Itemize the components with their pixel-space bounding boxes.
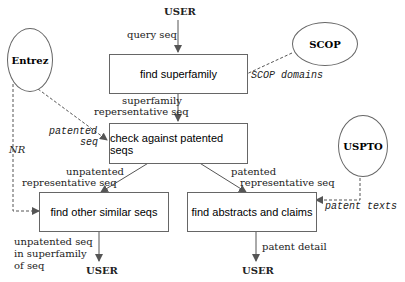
patented-rep-label-1: patented — [231, 166, 276, 177]
nr-label: NR — [9, 144, 25, 155]
find-abstracts-box: find abstracts and claims — [187, 192, 317, 232]
find-superfamily-box: find superfamily — [109, 54, 248, 94]
patent-detail-label: patent detail — [262, 241, 327, 252]
superfamily-label-1: superfamily — [122, 95, 182, 106]
find-abstracts-label: find abstracts and claims — [191, 206, 312, 218]
user-right-label: USER — [242, 265, 274, 276]
unpatented-label-1: unpatented — [66, 166, 124, 177]
superfamily-label-2: repersentative seq — [94, 106, 189, 117]
diagram-canvas: USER query seq SCOP SCOP domains Entrez … — [0, 0, 405, 282]
patented-seq-label-1: patented — [49, 126, 97, 137]
find-superfamily-label: find superfamily — [140, 68, 217, 80]
find-similar-box: find other similar seqs — [39, 192, 169, 232]
entrez-label: Entrez — [12, 55, 49, 66]
uspto-node: USPTO — [338, 115, 388, 177]
check-patented-label: check against patented seqs — [110, 132, 247, 156]
check-patented-box: check against patented seqs — [109, 123, 248, 164]
scop-node: SCOP — [292, 22, 358, 66]
out-left-label-2: in superfamily — [14, 248, 87, 259]
patent-texts-label: patent texts — [325, 201, 397, 212]
out-left-label-3: of seq — [14, 260, 44, 271]
scop-label: SCOP — [309, 39, 340, 50]
user-top-label: USER — [164, 6, 196, 17]
patented-seq-label-2: seq — [80, 137, 98, 148]
unpatented-label-2: representative seq — [22, 177, 117, 188]
uspto-label: USPTO — [343, 141, 383, 152]
scop-domains-label: SCOP domains — [251, 70, 323, 81]
find-similar-label: find other similar seqs — [51, 206, 158, 218]
entrez-node: Entrez — [7, 28, 53, 92]
query-seq-label: query seq — [127, 29, 177, 40]
user-left-label: USER — [86, 265, 118, 276]
patented-rep-label-2: representative seq — [240, 177, 335, 188]
out-left-label-1: unpatented seq — [14, 236, 93, 247]
